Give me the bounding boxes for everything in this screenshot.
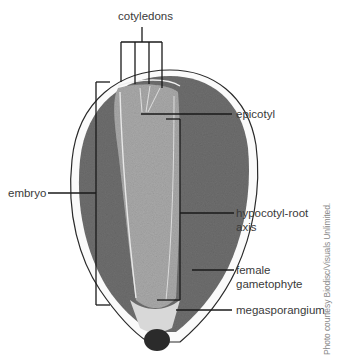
photo-credit: Photo courtesy Biodisc/Visuals Unlimited… — [322, 203, 332, 355]
label-cotyledons: cotyledons — [118, 9, 173, 23]
megasporangium-tip — [144, 329, 170, 351]
label-embryo: embryo — [8, 186, 46, 200]
label-female-gametophyte-line1: female — [236, 263, 271, 277]
label-hypocotyl-root-line2: axis — [236, 220, 256, 234]
label-female-gametophyte-line2: gametophyte — [236, 277, 303, 291]
label-epicotyl: epicotyl — [236, 107, 275, 121]
label-megasporangium: megasporangium — [236, 303, 325, 317]
label-hypocotyl-root-line1: hypocotyl-root — [236, 206, 308, 220]
